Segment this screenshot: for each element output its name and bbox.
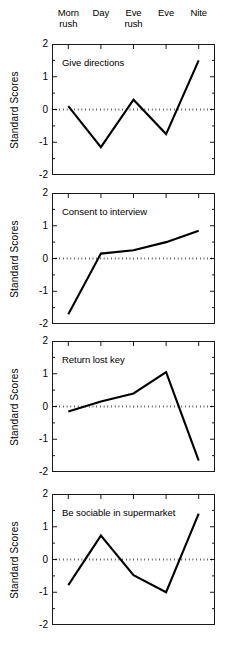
panel-title: Consent to interview xyxy=(62,206,147,217)
chart-panel-3: 210-1-2Be sociable in supermarket xyxy=(0,494,230,625)
y-tick-label-4: -2 xyxy=(30,467,48,477)
x-category-label-0: Morn rush xyxy=(52,8,85,40)
y-axis-title: Standard Scores xyxy=(9,71,20,149)
x-category-label-1: Day xyxy=(85,8,118,40)
data-series-line xyxy=(68,514,198,593)
y-axis-title: Standard Scores xyxy=(9,368,20,446)
y-tick-label-0: 2 xyxy=(30,489,48,499)
y-tick-label-4: -2 xyxy=(30,170,48,180)
y-tick-label-1: 1 xyxy=(30,369,48,379)
y-tick-label-0: 2 xyxy=(30,39,48,49)
chart-panel-0: 210-1-2Give directions xyxy=(0,44,230,175)
y-tick-label-0: 2 xyxy=(30,188,48,198)
y-axis-ticks: 210-1-2 xyxy=(30,494,48,625)
y-tick-label-4: -2 xyxy=(30,319,48,329)
y-axis-ticks: 210-1-2 xyxy=(30,44,48,175)
y-tick-label-3: -1 xyxy=(30,286,48,296)
y-tick-label-2: 0 xyxy=(30,254,48,264)
y-tick-label-0: 2 xyxy=(30,336,48,346)
x-category-header-row: Morn rushDayEve rushEveNite xyxy=(52,8,215,40)
y-axis-title: Standard Scores xyxy=(9,521,20,599)
y-tick-label-1: 1 xyxy=(30,522,48,532)
y-tick-label-2: 0 xyxy=(30,105,48,115)
y-tick-label-2: 0 xyxy=(30,555,48,565)
y-tick-label-3: -1 xyxy=(30,137,48,147)
y-tick-label-3: -1 xyxy=(30,587,48,597)
data-series-line xyxy=(68,231,198,315)
y-tick-label-2: 0 xyxy=(30,402,48,412)
figure-panel-stack: Morn rushDayEve rushEveNite 210-1-2Give … xyxy=(0,0,230,650)
panel-title: Give directions xyxy=(62,57,124,68)
y-axis-ticks: 210-1-2 xyxy=(30,341,48,472)
chart-panel-1: 210-1-2Consent to interview xyxy=(0,193,230,324)
y-tick-label-4: -2 xyxy=(30,620,48,630)
y-tick-label-1: 1 xyxy=(30,72,48,82)
chart-panel-2: 210-1-2Return lost key xyxy=(0,341,230,472)
y-tick-label-1: 1 xyxy=(30,221,48,231)
y-tick-label-3: -1 xyxy=(30,434,48,444)
y-axis-ticks: 210-1-2 xyxy=(30,193,48,324)
data-series-line xyxy=(68,372,198,460)
x-category-label-3: Eve xyxy=(150,8,183,40)
x-category-label-4: Nite xyxy=(182,8,215,40)
data-series-line xyxy=(68,60,198,147)
panel-title: Be sociable in supermarket xyxy=(62,507,175,518)
panel-title: Return lost key xyxy=(62,354,125,365)
y-axis-title: Standard Scores xyxy=(9,220,20,298)
x-category-label-2: Eve rush xyxy=(117,8,150,40)
